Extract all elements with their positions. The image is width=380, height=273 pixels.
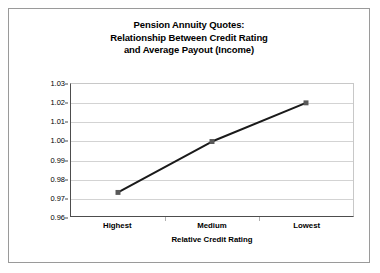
chart-title: Pension Annuity Quotes: Relationship Bet… [9,19,369,57]
y-axis-tick-mark [65,122,68,123]
y-axis-tick-mark [65,84,68,85]
y-axis-tick-label: 0.98 [50,176,65,184]
y-axis-tick-mark [65,198,68,199]
y-axis-tick-label: 1.03 [50,80,65,88]
plot-area [70,83,354,217]
chart-title-line-1: Pension Annuity Quotes: [9,19,369,32]
y-axis-tick-label: 1.00 [50,137,65,145]
y-axis-tick-label: 1.01 [50,118,65,126]
y-axis-ticks: 1.031.021.011.000.990.980.970.96 [31,83,68,219]
y-axis-tick-label: 1.02 [50,99,65,107]
chart-screenshot: Pension Annuity Quotes: Relationship Bet… [0,0,380,273]
chart-frame: Pension Annuity Quotes: Relationship Bet… [8,8,370,263]
series-line [118,103,306,193]
y-axis-tick-label: 0.97 [50,195,65,203]
y-axis-tick-mark [65,141,68,142]
x-axis-tick-label: Lowest [293,221,320,230]
chart-title-line-2: Relationship Between Credit Rating [9,32,369,45]
data-point-marker [210,139,215,144]
x-axis-tick-label: Highest [103,221,132,230]
y-axis-tick-mark [65,103,68,104]
y-axis-tick-label: 0.96 [50,214,65,222]
y-axis-tick-mark [65,160,68,161]
x-axis-tick-label: Medium [197,221,226,230]
series-line-chart [71,84,353,216]
x-axis-title: Relative Credit Rating [70,235,354,244]
x-axis-tick-mark [165,217,166,221]
y-axis-tick-mark [65,179,68,180]
x-axis-tick-mark [259,217,260,221]
chart-title-line-3: and Average Payout (Income) [9,44,369,57]
y-axis-tick-mark [65,218,68,219]
data-point-marker [304,100,309,105]
x-axis-ticks: HighestMediumLowest [70,221,354,235]
data-point-marker [116,190,121,195]
y-axis-tick-label: 0.99 [50,157,65,165]
